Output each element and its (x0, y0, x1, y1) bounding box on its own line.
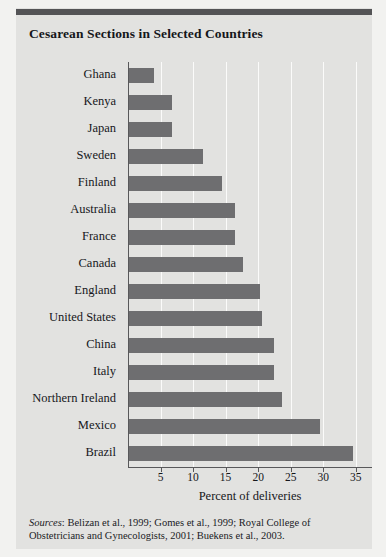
bar-row (128, 62, 372, 89)
category-label: China (0, 337, 122, 352)
category-label: Finland (0, 175, 122, 190)
bar-row (128, 278, 372, 305)
plot-area (128, 62, 372, 467)
category-label: England (0, 283, 122, 298)
bar (128, 257, 243, 272)
bar (128, 338, 274, 353)
top-rule (16, 9, 372, 15)
bar (128, 392, 282, 407)
bar (128, 122, 172, 137)
category-label: Kenya (0, 94, 122, 109)
bar-row (128, 305, 372, 332)
bar-row (128, 197, 372, 224)
sources-label: Sources (29, 517, 62, 528)
x-axis-tick-label: 15 (211, 471, 241, 483)
category-label: Japan (0, 121, 122, 136)
category-label: Mexico (0, 418, 122, 433)
sources-note: Sources: Belizan et al., 1999; Gomes et … (29, 516, 359, 542)
bar-row (128, 359, 372, 386)
bar (128, 95, 172, 110)
bar (128, 419, 320, 434)
bar (128, 230, 235, 245)
bar-row (128, 224, 372, 251)
x-axis-line (128, 467, 372, 468)
bar (128, 176, 222, 191)
bar-row (128, 116, 372, 143)
bar-row (128, 251, 372, 278)
x-axis-tick-label: 10 (178, 471, 208, 483)
bar-row (128, 89, 372, 116)
y-axis-line (128, 62, 129, 468)
bar (128, 203, 235, 218)
bar-row (128, 386, 372, 413)
screenshot-root: Cesarean Sections in Selected Countries … (0, 0, 386, 557)
sources-text: : Belizan et al., 1999; Gomes et al., 19… (29, 517, 311, 541)
x-axis-tick-label: 20 (243, 471, 273, 483)
bar (128, 365, 274, 380)
bar-row (128, 143, 372, 170)
category-label: Northern Ireland (0, 391, 122, 406)
bar (128, 284, 260, 299)
x-axis-tick-label: 5 (146, 471, 176, 483)
bar (128, 68, 154, 83)
category-label: Ghana (0, 67, 122, 82)
page-title: Cesarean Sections in Selected Countries (29, 26, 263, 42)
x-axis-tick-label: 25 (276, 471, 306, 483)
bar (128, 149, 203, 164)
category-label: Sweden (0, 148, 122, 163)
category-label: Italy (0, 364, 122, 379)
x-axis-tick-label: 35 (341, 471, 371, 483)
category-label: Australia (0, 202, 122, 217)
x-axis-tick-label: 30 (308, 471, 338, 483)
bar (128, 446, 353, 461)
x-axis-title: Percent of deliveries (128, 489, 372, 504)
bar-row (128, 170, 372, 197)
bar-row (128, 413, 372, 440)
bar-row (128, 332, 372, 359)
category-label: Brazil (0, 445, 122, 460)
bar-row (128, 440, 372, 467)
category-label: United States (0, 310, 122, 325)
category-label: France (0, 229, 122, 244)
category-axis-labels: GhanaKenyaJapanSwedenFinlandAustraliaFra… (0, 62, 122, 467)
category-label: Canada (0, 256, 122, 271)
bar (128, 311, 262, 326)
